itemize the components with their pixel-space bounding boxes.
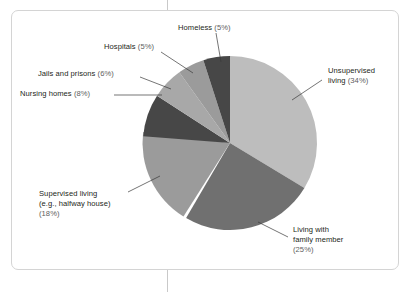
pie-label-unsupervised-living: Unsupervised living (34%) [328, 66, 375, 86]
pie-label-hospitals-pct: (5%) [138, 42, 154, 51]
pie-label-supervised-living: Supervised living (e.g., halfway house) … [39, 189, 111, 220]
pie-label-unsupervised-text2: living [328, 76, 348, 85]
pie-label-homeless-pct: (5%) [214, 23, 230, 32]
pie-label-family-line2: family member [293, 235, 343, 245]
pie-label-family-pct: (25%) [293, 245, 343, 255]
pie-label-homeless: Homeless (5%) [178, 23, 231, 33]
pie-label-living-with-family-member: Living with family member (25%) [293, 225, 343, 256]
pie-label-jails-text: Jails and prisons [38, 69, 98, 78]
pie-chart-svg [0, 0, 412, 292]
leader-line-hospitals [161, 52, 193, 73]
pie-chart: Homeless (5%) Hospitals (5%) Jails and p… [0, 0, 412, 292]
leader-line-family [258, 222, 288, 237]
pie-label-nursing-text: Nursing homes [20, 89, 74, 98]
pie-label-nursing-pct: (8%) [74, 89, 90, 98]
pie-label-family-line1: Living with [293, 225, 343, 235]
pie-label-jails-pct: (6%) [98, 69, 114, 78]
pie-label-hospitals: Hospitals (5%) [104, 42, 154, 52]
page-root: Homeless (5%) Hospitals (5%) Jails and p… [0, 0, 412, 292]
pie-label-unsupervised-line1: Unsupervised [328, 66, 375, 76]
pie-label-supervised-line1: Supervised living [39, 189, 111, 199]
pie-label-supervised-line2: (e.g., halfway house) [39, 199, 111, 209]
pie-label-hospitals-text: Hospitals [104, 42, 138, 51]
pie-slices [142, 56, 317, 230]
pie-label-supervised-pct: (18%) [39, 209, 111, 219]
pie-label-unsupervised-pct: (34%) [348, 76, 369, 85]
pie-label-jails-and-prisons: Jails and prisons (6%) [38, 69, 114, 79]
pie-label-homeless-text: Homeless [178, 23, 214, 32]
leader-line-jails [140, 77, 171, 89]
pie-label-nursing-homes: Nursing homes (8%) [20, 89, 90, 99]
pie-label-unsupervised-line2: living (34%) [328, 76, 375, 86]
